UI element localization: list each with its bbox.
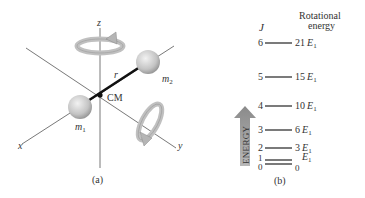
- caption-a: (a): [92, 175, 103, 185]
- level-energy-5: 15 E1: [295, 72, 317, 85]
- level-energy-1: E1: [302, 152, 312, 165]
- caption-b: (b): [274, 176, 286, 186]
- x-axis-label: x: [18, 141, 22, 151]
- energy-arrow-label: ENERGY: [241, 126, 251, 164]
- level-j-6: 6: [258, 38, 263, 48]
- energy-levels: [265, 43, 292, 164]
- z-axis-label: z: [97, 18, 101, 28]
- cm-label: CM: [107, 93, 123, 103]
- level-energy-0: 0: [295, 163, 300, 173]
- level-j-2: 2: [258, 143, 263, 153]
- cm-point: [97, 92, 102, 97]
- mass-m1: [68, 95, 92, 119]
- level-energy-3: 6 E1: [295, 125, 312, 138]
- j-header: J: [259, 22, 264, 32]
- level-j-4: 4: [258, 101, 263, 111]
- mass-m2: [136, 50, 160, 74]
- level-j-3: 3: [258, 125, 263, 135]
- level-energy-6: 21 E1: [295, 38, 317, 51]
- energy-header-line2: energy: [308, 21, 335, 31]
- level-j-5: 5: [258, 72, 263, 82]
- rotation-arrow-y-icon: [134, 101, 167, 146]
- level-j-0: 0: [258, 162, 263, 172]
- axes: [22, 28, 176, 168]
- m1-label: m1: [75, 122, 86, 135]
- r-label: r: [114, 70, 118, 80]
- y-axis-label: y: [178, 141, 182, 151]
- m2-label: m2: [162, 74, 173, 87]
- level-energy-4: 10 E1: [295, 101, 317, 114]
